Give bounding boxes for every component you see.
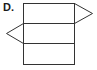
face-rectangle-bottom xyxy=(24,44,75,65)
face-rectangle-middle xyxy=(24,24,75,44)
face-triangle-right xyxy=(75,4,93,24)
prism-net-diagram xyxy=(0,0,97,70)
face-triangle-left xyxy=(7,24,24,44)
face-rectangle-top xyxy=(24,4,75,24)
